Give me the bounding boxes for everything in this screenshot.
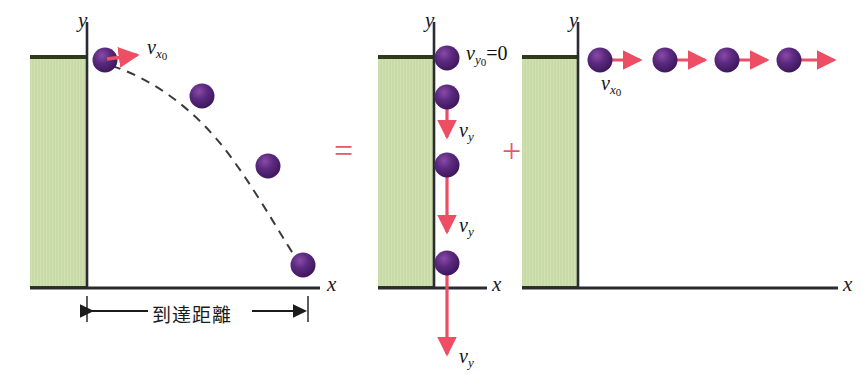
vy-label-2: vy [459, 214, 474, 240]
vy-sub-3: y [468, 355, 474, 370]
wall-block-left [30, 55, 87, 289]
x-axis-label-right: x [843, 272, 852, 297]
panel-horizontal [522, 22, 838, 289]
ball [93, 48, 118, 73]
ball [588, 48, 613, 73]
wall-block-middle [378, 55, 434, 289]
vy-v-1: v [459, 119, 468, 141]
vy-label-3: vy [459, 345, 474, 371]
ball [435, 85, 460, 110]
vx0r-sub-zero: 0 [616, 86, 622, 98]
y-axis-label-left: y [78, 8, 87, 33]
vy-sub-2: y [468, 224, 474, 239]
y-axis-label-right: y [569, 8, 578, 33]
x-axis-label-left: x [327, 272, 336, 297]
ball [653, 48, 678, 73]
ball [190, 84, 215, 109]
vx0-v: v [147, 36, 156, 58]
ball [435, 46, 460, 71]
vy0-v: v [466, 42, 475, 64]
vy-v-2: v [459, 214, 468, 236]
range-label: 到達距離 [152, 300, 232, 327]
projectile-motion-diagram [0, 0, 864, 384]
wall-block-right [522, 55, 578, 289]
equals-operator: = [334, 132, 353, 170]
vx0r-v: v [601, 72, 610, 94]
vx0-sub-zero: 0 [162, 50, 168, 62]
ball [435, 153, 460, 178]
panel-combined [30, 22, 320, 323]
ball [256, 154, 281, 179]
vy-label-1: vy [459, 119, 474, 145]
vy-sub-1: y [468, 129, 474, 144]
vx0-label-left: vx0 [147, 36, 167, 62]
panel-vertical [378, 22, 487, 354]
vx0-label-right: vx0 [601, 72, 621, 98]
plus-operator: + [502, 132, 521, 170]
ball [715, 48, 740, 73]
vy-v-3: v [459, 345, 468, 367]
ball [777, 48, 802, 73]
vy0-label: vy0=0 [466, 42, 507, 68]
ball [435, 251, 460, 276]
ball [291, 253, 316, 278]
y-axis-label-middle: y [425, 8, 434, 33]
vy0-equals-zero: =0 [486, 42, 507, 64]
x-axis-label-middle: x [492, 272, 501, 297]
